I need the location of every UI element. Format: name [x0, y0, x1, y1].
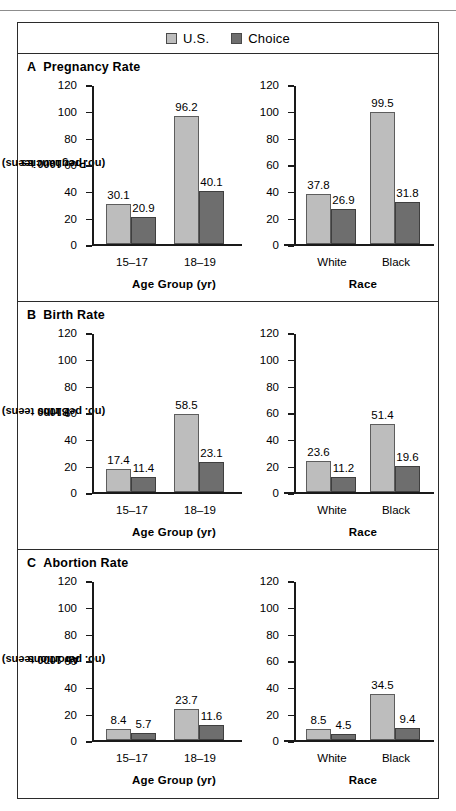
bar-us[interactable]: [370, 694, 395, 740]
bar-value-label-us: 96.2: [175, 101, 197, 113]
y-axis-tick-label: 40: [266, 434, 279, 446]
bar-us[interactable]: [306, 194, 331, 244]
bar-us[interactable]: [306, 461, 331, 492]
y-axis-tick-label: 0: [71, 487, 77, 499]
y-axis-tick-label: 120: [58, 575, 77, 587]
bar-value-label-choice: 31.8: [396, 187, 418, 199]
legend-swatch-icon: [231, 33, 242, 44]
bar-us[interactable]: [174, 709, 199, 741]
panel-b: BBirth RateBirths(no. per 1000 teens)120…: [18, 302, 438, 550]
legend-item-us: U.S.: [166, 31, 209, 46]
bar-choice[interactable]: [131, 477, 156, 492]
x-axis-line: [294, 244, 434, 246]
plot-area: 12010080604020030.120.915–1796.240.118–1…: [92, 86, 224, 246]
bar-choice[interactable]: [331, 209, 356, 245]
bar-value-label-choice: 19.6: [396, 451, 418, 463]
bar-value-label-choice: 5.7: [136, 718, 152, 730]
y-axis-tick-label: 120: [260, 79, 279, 91]
bar-group: 34.59.4: [370, 580, 422, 740]
bar-choice[interactable]: [395, 728, 420, 741]
legend-swatch-icon: [166, 33, 177, 44]
y-axis-tick: 0: [288, 741, 294, 743]
x-axis-category-label: 18–19: [184, 256, 216, 268]
y-axis-tick-label: 60: [64, 407, 77, 419]
x-axis-category-label: Black: [382, 752, 410, 764]
panel-charts: Pregnancies(no. per 1000 teens)120100806…: [18, 78, 438, 302]
plot-area: 12010080604020017.411.415–1758.523.118–1…: [92, 334, 224, 494]
bar-group-container: 30.120.915–1796.240.118–19: [92, 84, 224, 244]
x-axis-category-label: 18–19: [184, 504, 216, 516]
bar-us[interactable]: [174, 414, 199, 492]
y-axis-tick-label: 60: [64, 159, 77, 171]
panel-title: Birth Rate: [43, 308, 105, 322]
bar-us[interactable]: [106, 204, 131, 244]
bar-us[interactable]: [370, 424, 395, 493]
bar-value-label-us: 99.5: [371, 97, 393, 109]
x-axis-category-label: 15–17: [116, 752, 148, 764]
bar-choice[interactable]: [395, 202, 420, 244]
y-axis-tick-label: 80: [266, 381, 279, 393]
y-axis-tick-label: 40: [64, 682, 77, 694]
y-axis-tick-label: 80: [64, 381, 77, 393]
chart-age-group: Pregnancies(no. per 1000 teens)120100806…: [40, 78, 238, 302]
panel-heading: APregnancy Rate: [27, 60, 141, 74]
bar-value-label-choice: 26.9: [332, 194, 354, 206]
bar-choice[interactable]: [199, 191, 224, 244]
y-axis-tick-label: 20: [266, 461, 279, 473]
bar-value-label-us: 58.5: [175, 399, 197, 411]
y-axis-tick-label: 60: [266, 655, 279, 667]
bar-us[interactable]: [306, 729, 331, 740]
bar-us[interactable]: [106, 729, 131, 740]
bar-value-label-choice: 20.9: [132, 202, 154, 214]
bar-group-container: 17.411.415–1758.523.118–19: [92, 332, 224, 492]
bar-value-label-us: 8.5: [311, 714, 327, 726]
page-top-rule: [0, 10, 456, 11]
bar-choice[interactable]: [199, 462, 224, 493]
y-axis-tick-label: 20: [64, 213, 77, 225]
x-axis-category-label: 15–17: [116, 504, 148, 516]
legend-item-choice: Choice: [231, 31, 290, 46]
y-axis-tick-label: 0: [273, 239, 279, 251]
y-axis-tick-label: 100: [58, 354, 77, 366]
y-axis-tick-label: 0: [273, 487, 279, 499]
y-axis-tick-label: 40: [64, 434, 77, 446]
y-axis-tick-label: 100: [58, 602, 77, 614]
bar-value-label-us: 17.4: [107, 454, 129, 466]
bar-group: 51.419.6: [370, 332, 422, 492]
bar-group: 17.411.4: [106, 332, 158, 492]
x-axis-category-label: White: [317, 256, 346, 268]
y-axis-tick-label: 0: [273, 735, 279, 747]
y-axis-tick-label: 60: [64, 655, 77, 667]
y-axis-tick: 0: [288, 493, 294, 495]
x-axis-title: Age Group (yr): [108, 774, 240, 786]
chart-age-group: Births(no. per 1000 teens)12010080604020…: [40, 326, 238, 550]
x-axis-category-label: White: [317, 752, 346, 764]
bar-group: 37.826.9: [306, 84, 358, 244]
y-axis-tick-label: 120: [260, 327, 279, 339]
x-axis-line: [92, 244, 242, 246]
bar-choice[interactable]: [131, 217, 156, 245]
panel-heading: BBirth Rate: [27, 308, 105, 322]
plot-area: 12010080604020023.611.2White51.419.6Blac…: [294, 334, 420, 494]
bar-value-label-choice: 9.4: [400, 713, 416, 725]
bar-choice[interactable]: [331, 477, 356, 492]
bar-us[interactable]: [370, 112, 395, 245]
bar-choice[interactable]: [395, 466, 420, 492]
bar-value-label-choice: 23.1: [200, 447, 222, 459]
bar-choice[interactable]: [199, 725, 224, 740]
panel-a: APregnancy RatePregnancies(no. per 1000 …: [18, 54, 438, 302]
bar-group: 8.54.5: [306, 580, 358, 740]
y-axis-tick-label: 120: [260, 575, 279, 587]
bar-choice[interactable]: [331, 734, 356, 740]
x-axis-title: Age Group (yr): [108, 278, 240, 290]
x-axis-line: [294, 492, 434, 494]
chart-age-group: Abortions(no. per 1000 teens)12010080604…: [40, 574, 238, 798]
bar-group-container: 8.45.715–1723.711.618–19: [92, 580, 224, 740]
bar-choice[interactable]: [131, 733, 156, 741]
y-axis-tick-label: 40: [266, 186, 279, 198]
bar-us[interactable]: [174, 116, 199, 244]
y-axis-tick-label: 80: [266, 629, 279, 641]
bar-us[interactable]: [106, 469, 131, 492]
panel-charts: Abortions(no. per 1000 teens)12010080604…: [18, 574, 438, 798]
x-axis-category-label: 18–19: [184, 752, 216, 764]
